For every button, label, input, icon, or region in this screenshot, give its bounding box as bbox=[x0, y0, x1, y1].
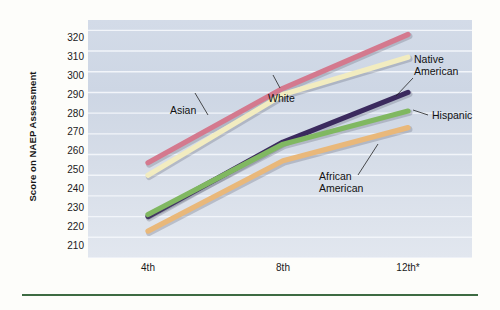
y-tick-label: 270 bbox=[50, 127, 84, 137]
series-label-native-american-line1: Native bbox=[414, 53, 444, 65]
y-tick-label: 310 bbox=[50, 52, 84, 62]
x-axis-tick-labels: 4th 8th 12th* bbox=[88, 262, 472, 278]
y-tick-label: 240 bbox=[50, 184, 84, 194]
bottom-rule bbox=[22, 294, 478, 296]
series-shadow-white bbox=[149, 59, 409, 177]
y-tick-label: 280 bbox=[50, 109, 84, 119]
y-tick-label: 250 bbox=[50, 165, 84, 175]
series-label-native-american-line2: American bbox=[414, 65, 458, 77]
x-tick-label-4th: 4th bbox=[141, 262, 155, 273]
series-label-white: White bbox=[268, 92, 295, 104]
series-label-native-american: Native American bbox=[414, 53, 458, 77]
y-tick-label: 220 bbox=[50, 222, 84, 232]
series-label-asian: Asian bbox=[170, 104, 196, 116]
leader-line-white bbox=[273, 75, 280, 88]
y-tick-label: 320 bbox=[50, 33, 84, 43]
leader-line-asian bbox=[195, 93, 208, 115]
chart-page: Score on NAEP Assessment 320 310 300 290… bbox=[0, 0, 500, 310]
y-tick-label: 230 bbox=[50, 203, 84, 213]
plot-area: Asian White Native American Hispanic Afr… bbox=[88, 20, 472, 258]
series-label-african-american: African American bbox=[319, 170, 363, 194]
series-label-hispanic: Hispanic bbox=[432, 109, 472, 121]
series-label-african-american-line1: African bbox=[319, 170, 352, 182]
y-axis-tick-labels: 320 310 300 290 280 270 260 250 240 230 … bbox=[48, 0, 84, 310]
y-tick-label: 210 bbox=[50, 241, 84, 251]
y-tick-label: 260 bbox=[50, 146, 84, 156]
y-tick-label: 290 bbox=[50, 90, 84, 100]
x-tick-label-12th: 12th* bbox=[396, 262, 419, 273]
naep-score-line-chart: Score on NAEP Assessment 320 310 300 290… bbox=[0, 0, 500, 310]
x-tick-label-8th: 8th bbox=[276, 262, 290, 273]
y-axis-title: Score on NAEP Assessment bbox=[27, 42, 38, 232]
y-tick-label: 300 bbox=[50, 71, 84, 81]
series-label-african-american-line2: American bbox=[319, 182, 363, 194]
